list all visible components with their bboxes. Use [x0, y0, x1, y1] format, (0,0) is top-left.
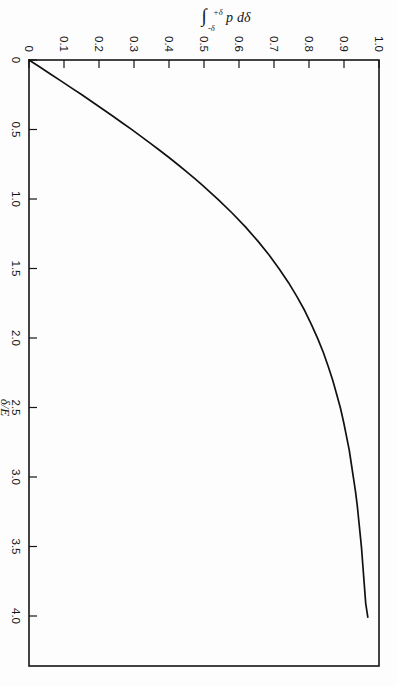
x-axis-tick-labels: 0 0.5 1.0 1.5 2.0 2.5 3.0 3.5 4.0 — [10, 57, 22, 624]
y-tick-label: 0.2 — [93, 36, 105, 52]
x-tick-label: 0 — [10, 57, 22, 63]
data-curve — [29, 60, 368, 617]
x-tick-label: 0.5 — [10, 122, 22, 138]
x-axis-ticks — [29, 60, 37, 616]
y-tick-label: 0.7 — [268, 36, 280, 52]
integral-lower-limit: -δ — [208, 23, 216, 33]
y-tick-label: 0.5 — [198, 36, 210, 52]
x-tick-label: 3.0 — [10, 469, 22, 485]
y-tick-label: 1.0 — [373, 36, 385, 52]
y-tick-label: 0.1 — [58, 36, 70, 52]
x-tick-label: 2.0 — [10, 330, 22, 346]
integral-upper-limit: +δ — [213, 7, 224, 17]
chart-figure: 0 0.5 1.0 1.5 2.0 2.5 3.0 3.5 4.0 δ/E — [0, 0, 397, 686]
y-tick-label: 0.9 — [338, 36, 350, 52]
y-tick-label: 0.6 — [233, 36, 245, 52]
y-axis-tick-labels: 0 0.1 0.2 0.3 0.4 0.5 0.6 0.7 0.8 0.9 1.… — [23, 36, 385, 53]
x-tick-label: 4.0 — [10, 608, 22, 624]
differential: dδ — [237, 10, 251, 25]
y-tick-label: 0.4 — [163, 36, 175, 53]
x-tick-label: 1.0 — [10, 191, 22, 207]
x-tick-label: 1.5 — [10, 261, 22, 277]
y-tick-label: 0.8 — [303, 36, 315, 52]
rotation-wrapper: 0 0.5 1.0 1.5 2.0 2.5 3.0 3.5 4.0 δ/E — [0, 0, 397, 686]
y-axis-ticks — [29, 60, 379, 68]
figure-page: 0 0.5 1.0 1.5 2.0 2.5 3.0 3.5 4.0 δ/E — [0, 0, 397, 686]
y-tick-label: 0 — [23, 46, 35, 52]
plot-canvas: 0 0.5 1.0 1.5 2.0 2.5 3.0 3.5 4.0 δ/E — [0, 0, 397, 686]
integrand: p — [225, 10, 233, 25]
y-tick-label: 0.3 — [128, 36, 140, 52]
y-axis-label: ∫ +δ -δ p dδ — [200, 5, 251, 33]
x-tick-label: 3.5 — [10, 539, 22, 555]
x-axis-label: δ/E — [0, 399, 13, 417]
